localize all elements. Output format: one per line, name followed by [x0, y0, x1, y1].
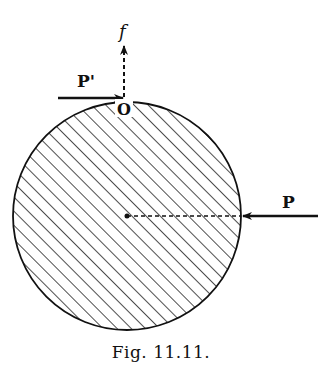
label-f: f	[117, 21, 129, 42]
label-O: O	[117, 100, 131, 119]
label-P-prime: P'	[77, 71, 95, 91]
center-dot	[125, 214, 130, 219]
label-P: P	[282, 192, 295, 212]
figure-caption: Fig. 11.11.	[0, 342, 322, 362]
diagram-canvas: P P' f O	[0, 0, 322, 371]
